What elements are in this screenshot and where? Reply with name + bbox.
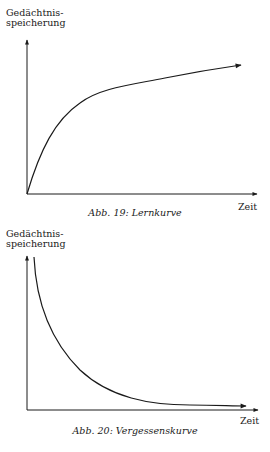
- y-axis-label-line2: speicherung: [6, 239, 66, 249]
- vergessenskurve-chart: [27, 256, 258, 410]
- y-axis-label: Gedächtnis- speicherung: [6, 8, 66, 28]
- charts-canvas: [0, 0, 270, 452]
- figure-caption: Abb. 19: Lernkurve: [0, 207, 270, 218]
- y-axis-label-line2: speicherung: [6, 18, 66, 28]
- forgetting-curve: [34, 257, 246, 406]
- lernkurve-chart: [27, 40, 257, 194]
- y-axis-label: Gedächtnis- speicherung: [6, 229, 66, 249]
- learning-curve: [27, 65, 241, 194]
- figure-caption: Abb. 20: Vergessenskurve: [0, 425, 270, 436]
